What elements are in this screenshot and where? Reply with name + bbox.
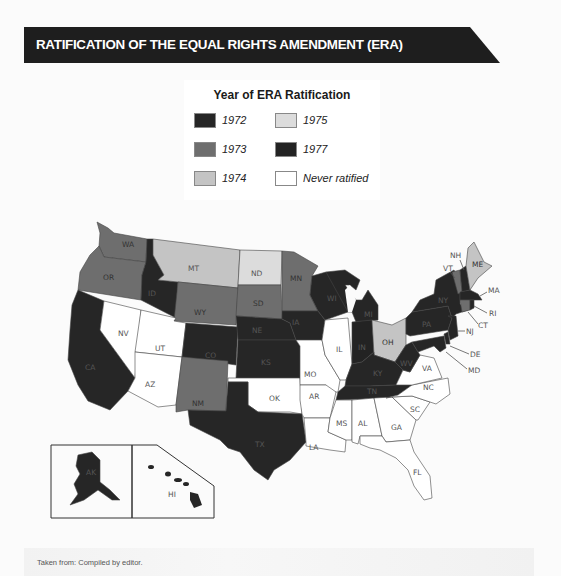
label-HI: HI — [168, 490, 176, 499]
state-MD[interactable] — [412, 336, 446, 352]
inset-hawaii-box — [132, 445, 214, 518]
state-RI[interactable] — [470, 300, 474, 310]
label-ME: ME — [472, 260, 483, 269]
label-WI: WI — [327, 294, 337, 303]
label-WA: WA — [122, 240, 135, 249]
state-WY[interactable] — [174, 282, 238, 325]
callout-MA — [480, 292, 487, 296]
label-FL: FL — [413, 468, 422, 477]
label-RI: RI — [489, 309, 496, 318]
label-SC: SC — [410, 405, 420, 414]
label-NJ: NJ — [466, 327, 474, 336]
label-NC: NC — [423, 383, 434, 392]
label-AK: AK — [86, 468, 97, 477]
callout-MD — [446, 352, 467, 369]
label-MD: MD — [468, 366, 480, 375]
label-TX: TX — [254, 440, 265, 449]
label-UT: UT — [155, 344, 165, 353]
label-GA: GA — [391, 423, 403, 432]
label-NE: NE — [252, 326, 263, 335]
label-MS: MS — [336, 419, 347, 428]
label-IL: IL — [336, 345, 343, 354]
label-LA: LA — [309, 443, 319, 452]
state-MA[interactable] — [460, 290, 482, 300]
label-AR: AR — [309, 392, 319, 401]
callout-RI — [474, 306, 487, 313]
label-KY: KY — [373, 369, 383, 378]
state-CT[interactable] — [460, 300, 470, 312]
label-NM: NM — [192, 399, 204, 408]
label-OR: OR — [103, 273, 114, 282]
label-CA: CA — [85, 363, 96, 372]
label-MI: MI — [364, 310, 373, 319]
label-ND: ND — [251, 269, 263, 278]
label-NH: NH — [450, 251, 461, 260]
label-NV: NV — [118, 329, 130, 338]
label-MN: MN — [290, 274, 302, 283]
label-MA: MA — [488, 286, 500, 295]
label-DE: DE — [470, 350, 481, 359]
callout-DE — [450, 346, 469, 354]
label-MT: MT — [188, 264, 199, 273]
state-ND[interactable] — [238, 250, 282, 285]
label-CT: CT — [478, 321, 488, 330]
label-KS: KS — [261, 358, 271, 367]
label-IA: IA — [292, 318, 300, 327]
label-OH: OH — [382, 338, 394, 347]
label-CO: CO — [205, 351, 216, 360]
label-VT: VT — [443, 264, 453, 273]
label-WV: WV — [400, 359, 413, 368]
label-PA: PA — [422, 320, 432, 329]
state-AR[interactable] — [300, 385, 336, 418]
label-VA: VA — [422, 364, 433, 373]
label-MO: MO — [304, 370, 316, 379]
source-note: Taken from: Compiled by editor. — [37, 558, 142, 567]
label-OK: OK — [269, 394, 281, 403]
label-AZ: AZ — [145, 380, 155, 389]
label-SD: SD — [253, 299, 264, 308]
state-AK[interactable] — [70, 452, 120, 505]
label-IN: IN — [358, 343, 366, 352]
label-AL: AL — [358, 419, 368, 428]
label-WY: WY — [194, 308, 206, 317]
label-ID: ID — [148, 289, 156, 298]
callout-CT — [468, 312, 478, 324]
label-TN: TN — [366, 387, 377, 396]
label-NY: NY — [438, 296, 449, 305]
